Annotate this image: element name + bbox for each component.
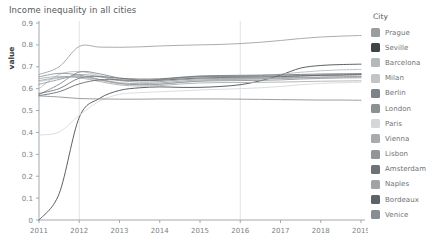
plot-area: 00.10.20.30.40.50.60.70.80.9201120122013…	[0, 16, 368, 246]
legend-title: City	[373, 12, 436, 21]
x-axis-tick-label: 2011	[30, 227, 48, 235]
legend-swatch-icon	[371, 89, 380, 98]
legend-swatch-icon	[371, 134, 380, 143]
legend-item-label: Prague	[385, 29, 410, 37]
y-axis-tick-label: 0.5	[22, 107, 33, 115]
legend-item-label: Lisbon	[385, 150, 408, 158]
y-axis-tick-label: 0	[29, 217, 33, 225]
y-axis-tick-label: 0.6	[22, 85, 34, 93]
x-axis-tick-label: 2019	[352, 227, 368, 235]
legend-item-label: Berlin	[385, 89, 406, 97]
legend-item[interactable]: Paris	[371, 116, 436, 131]
series-line	[39, 35, 361, 74]
chart-page: Income inequality in all cities 00.10.20…	[0, 0, 436, 246]
y-axis-tick-label: 0.8	[22, 41, 33, 49]
legend-item[interactable]: London	[371, 101, 436, 116]
line-chart-svg: 00.10.20.30.40.50.60.70.80.9201120122013…	[0, 16, 368, 246]
legend-item[interactable]: Amsterdam	[371, 162, 436, 177]
legend-item-label: Barcelona	[385, 59, 420, 67]
x-axis-tick-label: 2013	[111, 227, 129, 235]
x-axis-tick-label: 2017	[272, 227, 290, 235]
legend-swatch-icon	[371, 210, 380, 219]
legend-item-label: Bordeaux	[385, 196, 419, 204]
legend-item-label: Vienna	[385, 135, 409, 143]
legend-swatch-icon	[371, 165, 380, 174]
legend-item-label: Naples	[385, 180, 409, 188]
x-axis-tick-label: 2018	[312, 227, 330, 235]
legend-item[interactable]: Prague	[371, 25, 436, 40]
series-line	[39, 76, 361, 83]
series-line	[39, 64, 361, 220]
legend-swatch-icon	[371, 180, 380, 189]
legend-swatch-icon	[371, 28, 380, 37]
legend-swatch-icon	[371, 150, 380, 159]
legend-item[interactable]: Venice	[371, 207, 436, 222]
x-axis-tick-label: 2015	[191, 227, 209, 235]
legend-item[interactable]: Barcelona	[371, 55, 436, 70]
legend-swatch-icon	[371, 104, 380, 113]
legend-item-label: Seville	[385, 44, 408, 52]
legend-item-label: Paris	[385, 120, 402, 128]
y-axis-title: value	[7, 47, 16, 70]
x-axis-tick-label: 2012	[70, 227, 88, 235]
series-line	[39, 82, 361, 135]
legend: City PragueSevilleBarcelonaMilanBerlinLo…	[371, 12, 436, 222]
chart-title: Income inequality in all cities	[9, 5, 136, 15]
legend-item-list: PragueSevilleBarcelonaMilanBerlinLondonP…	[371, 25, 436, 222]
legend-item[interactable]: Vienna	[371, 131, 436, 146]
x-axis-tick-label: 2014	[151, 227, 169, 235]
legend-swatch-icon	[371, 43, 380, 52]
legend-swatch-icon	[371, 74, 380, 83]
y-axis-tick-label: 0.9	[22, 20, 33, 28]
legend-item[interactable]: Milan	[371, 71, 436, 86]
series-line	[39, 96, 361, 100]
legend-swatch-icon	[371, 195, 380, 204]
legend-item[interactable]: Naples	[371, 177, 436, 192]
legend-item-label: Amsterdam	[385, 165, 426, 173]
legend-item[interactable]: Bordeaux	[371, 192, 436, 207]
y-axis-tick-label: 0.4	[22, 129, 34, 137]
legend-item[interactable]: Lisbon	[371, 147, 436, 162]
legend-item-label: Venice	[385, 211, 408, 219]
legend-swatch-icon	[371, 58, 380, 67]
y-axis-tick-label: 0.2	[22, 173, 33, 181]
legend-item-label: Milan	[385, 74, 404, 82]
x-axis-tick-label: 2016	[231, 227, 249, 235]
y-axis-tick-label: 0.3	[22, 151, 33, 159]
legend-item[interactable]: Berlin	[371, 86, 436, 101]
legend-swatch-icon	[371, 119, 380, 128]
y-axis-tick-label: 0.1	[22, 195, 33, 203]
y-axis-tick-label: 0.7	[22, 63, 33, 71]
legend-item[interactable]: Seville	[371, 40, 436, 55]
legend-item-label: London	[385, 105, 411, 113]
